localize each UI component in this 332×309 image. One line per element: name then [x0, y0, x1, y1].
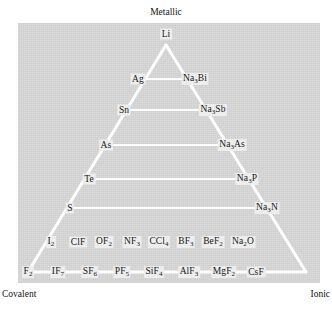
base-node-2: SF6: [81, 266, 98, 278]
node-na3p: Na3P: [235, 173, 258, 185]
interior-node-3: NF3: [123, 236, 142, 248]
node-na3bi: Na3Bi: [181, 73, 208, 85]
node-na3as: Na3As: [218, 139, 247, 151]
node-li: Li: [160, 29, 172, 40]
interior-node-4: CCl4: [148, 236, 170, 248]
base-node-1: IF7: [50, 266, 65, 278]
caption-metallic: Metallic: [150, 7, 182, 18]
interior-node-6: BeF2: [202, 236, 225, 248]
caption-covalent: Covalent: [2, 289, 36, 300]
node-sn: Sn: [117, 105, 130, 116]
interior-node-2: OF2: [95, 236, 114, 248]
base-node-3: PF5: [113, 266, 130, 278]
base-node-0: F2: [22, 266, 34, 278]
caption-ionic: Ionic: [310, 289, 330, 300]
node-ag: Ag: [131, 74, 146, 85]
node-s: S: [66, 203, 74, 214]
node-as: As: [99, 140, 113, 151]
interior-node-0: I2: [46, 236, 56, 248]
figure-canvas: Metallic Covalent Ionic Li Ag Na3Bi Sn N…: [0, 0, 332, 309]
base-node-4: SiF4: [144, 266, 164, 278]
base-node-5: AlF3: [178, 266, 200, 278]
triangle-lines: [0, 0, 332, 309]
base-node-7: CsF: [247, 267, 266, 278]
interior-node-5: BF3: [177, 236, 195, 248]
base-node-6: MgF2: [211, 266, 236, 278]
interior-node-7: Na2O: [231, 236, 256, 248]
node-te: Te: [83, 174, 96, 185]
node-na3n: Na3N: [255, 202, 280, 214]
interior-node-1: ClF: [69, 237, 87, 248]
node-na3sb: Na3Sb: [199, 104, 227, 116]
